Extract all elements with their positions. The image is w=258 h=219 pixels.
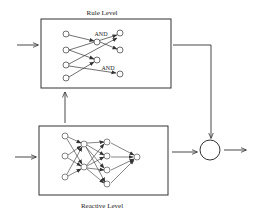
and-label: AND (95, 31, 109, 37)
reactive-hidden-node (104, 153, 110, 159)
reactive-input-node (62, 153, 68, 159)
rule-level-box: AND AND (41, 19, 171, 88)
reactive-level-title: Reactive Level (81, 202, 123, 210)
reactive-hidden-node (81, 141, 87, 147)
reactive-hidden-node (104, 139, 110, 145)
reactive-input-node (62, 174, 68, 180)
rule-input-node (63, 31, 69, 37)
rule-input-node (63, 47, 69, 53)
rule-output-node (117, 47, 123, 53)
rule-network (63, 30, 123, 81)
rule-level-title: Rule Level (87, 9, 118, 17)
reactive-hidden-node (104, 167, 110, 173)
and-label: AND (102, 65, 116, 71)
rule-input-node (63, 62, 69, 68)
rule-and-node (94, 57, 100, 63)
reactive-level-box (39, 126, 168, 195)
combiner-node (200, 140, 220, 160)
rule-input-node (63, 75, 69, 81)
reactive-hidden-node (104, 181, 110, 187)
rule-and-node (94, 39, 100, 45)
reactive-hidden-node (81, 164, 87, 170)
rule-output-node (117, 71, 123, 77)
reactive-input-node (62, 133, 68, 139)
reactive-network (62, 133, 140, 187)
rule-output-node (117, 30, 123, 36)
architecture-diagram: Rule Level AND (0, 0, 258, 219)
rule-output-arrow (173, 45, 211, 138)
reactive-output-node (134, 154, 140, 160)
